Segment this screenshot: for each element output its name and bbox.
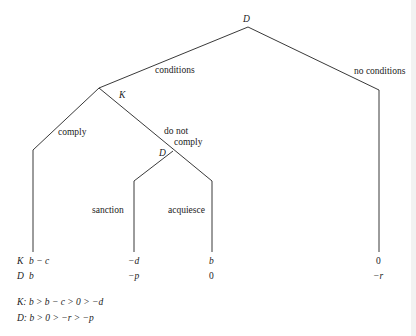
d-player-label: D xyxy=(159,149,166,159)
conditions-label: conditions xyxy=(155,66,195,76)
comply-label: comply xyxy=(58,128,87,138)
payoff-row-k-label: K xyxy=(17,257,23,267)
acquiesce-label: acquiesce xyxy=(168,206,205,216)
do-not-comply-label-line2: comply xyxy=(174,138,203,148)
payoff-sanction-k: −d xyxy=(128,257,139,267)
preference-d: D: b > 0 > −r > −p xyxy=(17,314,94,324)
no-conditions-label: no conditions xyxy=(354,67,405,77)
payoff-acquiesce-k: b xyxy=(209,257,214,267)
edge-do-not-comply xyxy=(99,88,212,181)
payoff-comply-d: b xyxy=(29,272,34,282)
payoff-row-d-label: D xyxy=(17,272,24,282)
root-player-label: D xyxy=(243,15,250,25)
payoff-acquiesce-d: 0 xyxy=(209,272,214,282)
edge-sanction xyxy=(134,151,173,181)
do-not-comply-label-line1: do not xyxy=(164,127,188,137)
payoff-sanction-d: −p xyxy=(128,272,139,282)
game-tree-lines xyxy=(0,0,416,336)
payoff-no-conditions-d: −r xyxy=(373,272,383,282)
payoff-comply-k: b − c xyxy=(29,257,49,267)
sanction-label: sanction xyxy=(92,206,124,216)
edge-conditions xyxy=(99,27,248,88)
edge-comply xyxy=(33,88,99,150)
preference-k: K: b > b − c > 0 > −d xyxy=(17,298,103,308)
payoff-no-conditions-k: 0 xyxy=(376,257,381,267)
edge-no-conditions xyxy=(248,27,379,90)
k-player-label: K xyxy=(119,91,125,101)
